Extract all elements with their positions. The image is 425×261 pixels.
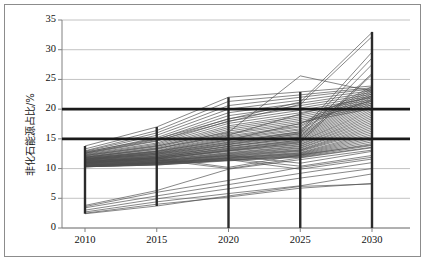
y-tick-label: 15 (26, 133, 56, 144)
chart-container: 非化石能源占比/% 051015202530352010201520202025… (0, 0, 425, 261)
y-tick-label: 10 (26, 163, 56, 174)
y-tick-label: 0 (26, 222, 56, 233)
y-tick-label: 25 (26, 73, 56, 84)
y-tick-label: 30 (26, 44, 56, 55)
x-tick-label: 2020 (209, 235, 249, 246)
y-tick-label: 35 (26, 14, 56, 25)
x-tick-label: 2030 (352, 235, 392, 246)
y-tick-label: 5 (26, 192, 56, 203)
line-chart-plot (0, 0, 425, 261)
y-tick-label: 20 (26, 103, 56, 114)
x-tick-label: 2025 (280, 235, 320, 246)
x-tick-label: 2015 (137, 235, 177, 246)
x-tick-label: 2010 (65, 235, 105, 246)
